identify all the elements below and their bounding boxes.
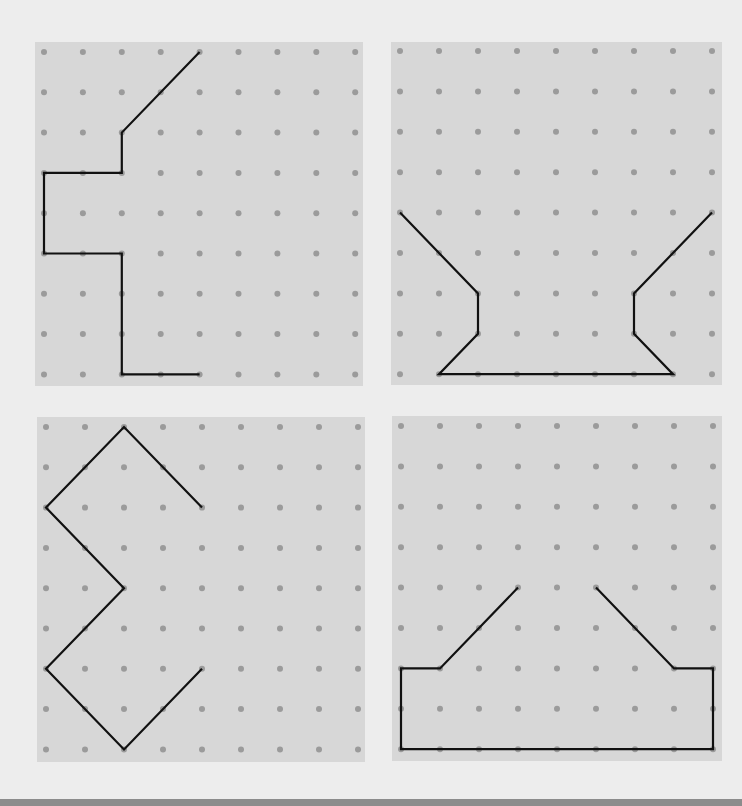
grid-dot (238, 505, 244, 511)
grid-dot (553, 331, 559, 337)
grid-dot (397, 88, 403, 94)
grid-dot (554, 665, 560, 671)
grid-dot (553, 88, 559, 94)
panel-top-left (35, 42, 363, 386)
grid-dot (554, 625, 560, 631)
grid-dot (277, 585, 283, 591)
grid-dot (671, 544, 677, 550)
grid-dot (398, 504, 404, 510)
grid-dot (119, 210, 125, 216)
grid-dot (476, 463, 482, 469)
grid-dot (671, 625, 677, 631)
grid-dot (515, 504, 521, 510)
grid-dot (199, 746, 205, 752)
grid-dot (593, 504, 599, 510)
grid-dot (43, 545, 49, 551)
grid-dot (274, 49, 280, 55)
grid-dot (631, 48, 637, 54)
grid-dot (41, 89, 47, 95)
grid-dot (710, 625, 716, 631)
grid-dot (238, 424, 244, 430)
grid-dot (82, 666, 88, 672)
grid-dot (398, 544, 404, 550)
grid-dot (199, 424, 205, 430)
grid-dot (352, 49, 358, 55)
grid-dot (709, 290, 715, 296)
grid-dot (197, 210, 203, 216)
grid-dot (514, 290, 520, 296)
grid-dot (398, 463, 404, 469)
grid-dot (436, 290, 442, 296)
grid-dot (197, 331, 203, 337)
grid-dot (119, 49, 125, 55)
grid-dot (316, 424, 322, 430)
grid-dot (475, 210, 481, 216)
grid-dot (553, 48, 559, 54)
grid-dot (160, 746, 166, 752)
grid-dot (437, 625, 443, 631)
grid-dot (437, 544, 443, 550)
grid-dot (158, 170, 164, 176)
grid-dot (316, 746, 322, 752)
grid-dot (313, 130, 319, 136)
grid-dot (236, 89, 242, 95)
grid-dot (554, 463, 560, 469)
grid-dot (197, 170, 203, 176)
grid-dot (436, 210, 442, 216)
grid-dot (352, 251, 358, 257)
grid-dot (355, 706, 361, 712)
dot-grid (392, 416, 722, 761)
grid-dot (197, 291, 203, 297)
grid-dot (277, 666, 283, 672)
grid-dot (709, 169, 715, 175)
grid-dot (632, 585, 638, 591)
grid-dot (355, 626, 361, 632)
grid-dot (398, 423, 404, 429)
grid-dot (352, 371, 358, 377)
grid-dot (277, 626, 283, 632)
grid-dot (398, 625, 404, 631)
grid-dot (316, 505, 322, 511)
grid-dot (236, 371, 242, 377)
grid-dot (397, 371, 403, 377)
grid-dot (80, 331, 86, 337)
grid-dot (199, 706, 205, 712)
grid-dot (709, 331, 715, 337)
grid-dot (41, 130, 47, 136)
grid-dot (515, 706, 521, 712)
grid-dot (671, 585, 677, 591)
grid-dot (277, 706, 283, 712)
grid-dot (199, 626, 205, 632)
grid-dot (313, 291, 319, 297)
grid-dot (514, 331, 520, 337)
grid-dot (592, 250, 598, 256)
grid-dot (313, 371, 319, 377)
grid-dot (670, 331, 676, 337)
grid-dot (238, 666, 244, 672)
grid-dot (476, 423, 482, 429)
grid-dot (197, 89, 203, 95)
grid-dot (631, 169, 637, 175)
grid-dot (160, 424, 166, 430)
grid-dot (82, 746, 88, 752)
grid-dot (316, 666, 322, 672)
grid-dot (158, 130, 164, 136)
grid-dot (277, 464, 283, 470)
grid-dot (199, 585, 205, 591)
grid-dot (160, 585, 166, 591)
grid-dot (436, 88, 442, 94)
grid-dot (238, 706, 244, 712)
grid-dot (671, 463, 677, 469)
grid-dot (236, 49, 242, 55)
grid-dot (553, 250, 559, 256)
grid-dot (355, 464, 361, 470)
grid-dot (80, 49, 86, 55)
grid-dot (277, 424, 283, 430)
grid-dot (199, 464, 205, 470)
grid-dot (554, 544, 560, 550)
grid-dot (437, 504, 443, 510)
grid-dot (43, 424, 49, 430)
grid-dot (199, 545, 205, 551)
grid-dot (119, 89, 125, 95)
grid-dot (274, 89, 280, 95)
